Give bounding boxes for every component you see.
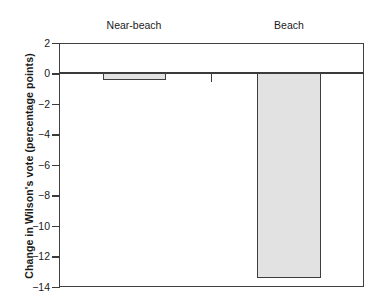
y-tick-label-m10: −10: [6, 221, 50, 232]
y-tick-mark-m12: [52, 256, 60, 257]
y-tick-label-0: 0: [6, 68, 50, 79]
y-tick-label-m2: −2: [6, 99, 50, 110]
category-label-beach-line1: Beach: [274, 19, 304, 31]
bar-chart: Change in Wilson's vote (percentage poin…: [0, 0, 386, 305]
y-tick-mark-0: [52, 73, 60, 74]
x-tick-mark-separator: [211, 74, 212, 82]
y-tick-mark-m2: [52, 104, 60, 105]
bar-near-beach-townships: [103, 73, 166, 80]
y-tick-label-m14: −14: [6, 282, 50, 293]
y-tick-mark-m8: [52, 195, 60, 196]
y-tick-mark-2: [52, 43, 60, 44]
category-label-near-beach-line1: Near-beach: [107, 19, 162, 31]
y-tick-label-m12: −12: [6, 251, 50, 262]
y-tick-mark-m10: [52, 226, 60, 227]
y-tick-label-m4: −4: [6, 129, 50, 140]
bar-beach-townships: [257, 73, 321, 277]
y-tick-label-m6: −6: [6, 160, 50, 171]
y-tick-mark-m14: [52, 287, 60, 288]
y-tick-label-m8: −8: [6, 190, 50, 201]
y-tick-label-2: 2: [6, 38, 50, 49]
y-tick-mark-m4: [52, 134, 60, 135]
y-tick-mark-m6: [52, 165, 60, 166]
